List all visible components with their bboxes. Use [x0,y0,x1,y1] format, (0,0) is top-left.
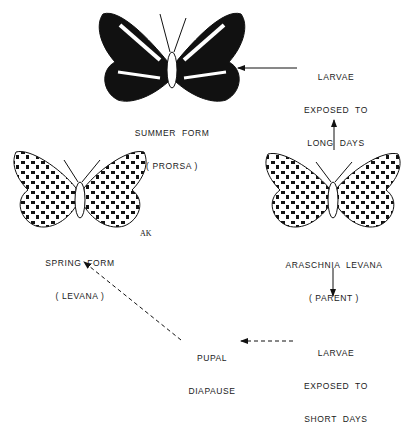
artist-signature: AK [140,229,152,238]
summer-form-label: SUMMER FORM ( PRORSA ) [120,106,224,183]
long-days-label: LARVAE EXPOSED TO LONG DAYS [296,50,376,160]
pupal-diapause-label: PUPAL DIAPAUSE [184,331,240,408]
parent-label: ARASCHNIA LEVANA ( PARENT ) [274,238,394,315]
spring-form-label: SPRING FORM ( LEVANA ) [28,236,132,313]
parent-butterfly-icon [266,153,400,227]
summer-butterfly-icon [99,13,245,101]
short-days-label: LARVAE EXPOSED TO SHORT DAYS [296,326,376,426]
